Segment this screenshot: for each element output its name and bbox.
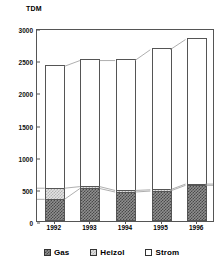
bar-segment-strom (152, 48, 172, 190)
x-tick-mark (161, 221, 162, 224)
bar-column (187, 30, 207, 221)
bar-column (80, 30, 100, 221)
x-tick-label: 1996 (189, 224, 203, 231)
legend-label-heizol: Heizol (100, 248, 124, 257)
x-tick-label: 1994 (118, 224, 132, 231)
x-tick-mark (125, 221, 126, 224)
bar-segment-gas (80, 188, 100, 221)
bar-segment-heizol (187, 184, 207, 185)
bar-column (116, 30, 136, 221)
x-axis-labels: 19921993199419951996 (36, 224, 214, 236)
bar-segment-heizol (152, 189, 172, 190)
legend-swatch-heizol-icon (90, 249, 97, 256)
legend-item-gas: Gas (44, 248, 69, 257)
chart-legend: Gas Heizol Strom (0, 244, 223, 260)
y-tick-label: 500 (22, 187, 37, 194)
bar-segment-gas (187, 185, 207, 221)
bar-segment-gas (116, 192, 136, 221)
x-tick-mark (89, 221, 90, 224)
bar-column (152, 30, 172, 221)
bar-column (45, 30, 65, 221)
y-tick-label: 2000 (19, 91, 37, 98)
x-tick-mark (54, 221, 55, 224)
x-tick-label: 1992 (47, 224, 61, 231)
legend-item-heizol: Heizol (90, 248, 124, 257)
y-tick-label: 3000 (19, 27, 37, 34)
legend-swatch-strom-icon (145, 249, 152, 256)
bar-segment-heizol (116, 190, 136, 192)
bar-segment-heizol (80, 186, 100, 188)
y-tick-label: 2500 (19, 59, 37, 66)
y-axis-unit-label: TDM (26, 5, 42, 12)
plot-area: 050010001500200025003000 (36, 29, 214, 222)
legend-label-gas: Gas (54, 248, 69, 257)
bar-segment-gas (45, 199, 65, 221)
legend-label-strom: Strom (155, 248, 179, 257)
bar-segment-strom (187, 38, 207, 184)
y-tick-label: 1500 (19, 123, 37, 130)
bar-segment-gas (152, 191, 172, 221)
x-tick-label: 1995 (153, 224, 167, 231)
bar-segment-heizol (45, 188, 65, 199)
bar-segment-strom (45, 65, 65, 188)
bars-group (37, 30, 213, 221)
bar-segment-strom (116, 59, 136, 190)
x-tick-label: 1993 (82, 224, 96, 231)
x-tick-mark (196, 221, 197, 224)
stacked-bar-chart: TDM 050010001500200025003000 19921993199… (0, 0, 223, 263)
legend-item-strom: Strom (145, 248, 179, 257)
bar-segment-strom (80, 59, 100, 186)
y-tick-label: 1000 (19, 155, 37, 162)
legend-swatch-gas-icon (44, 249, 51, 256)
